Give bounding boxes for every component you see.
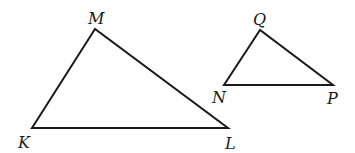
vertex-label-q: Q (253, 10, 266, 29)
vertex-label-m: M (87, 9, 105, 28)
triangle-npq (224, 30, 333, 85)
vertex-label-k: K (17, 133, 31, 152)
vertex-label-p: P (326, 89, 338, 108)
similar-triangles-diagram: M K L Q N P (0, 0, 355, 153)
vertex-label-l: L (224, 134, 236, 153)
vertex-label-n: N (211, 88, 227, 107)
triangle-kml (32, 29, 228, 128)
